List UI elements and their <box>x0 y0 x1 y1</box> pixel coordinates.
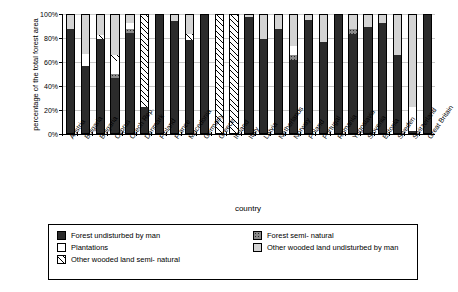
y-tick-label: 60% <box>24 59 58 66</box>
y-tick-label: 40% <box>24 83 58 90</box>
legend-item-owl-undisturbed: Other wooded land undisturbed by man <box>253 243 398 252</box>
legend-label: Other wooded land undisturbed by man <box>267 243 398 252</box>
y-tick-label: 20% <box>24 107 58 114</box>
x-tick-mark <box>92 132 93 136</box>
x-tick-mark <box>77 132 78 136</box>
y-tick-mark <box>59 86 62 87</box>
x-tick-mark <box>241 132 242 136</box>
x-tick-mark <box>315 132 316 136</box>
x-tick-mark <box>330 132 331 136</box>
legend-item-owl-seminatural: Other wooded land semi- natural <box>57 255 253 264</box>
y-tick-label: 0% <box>24 131 58 138</box>
legend-label: Other wooded land semi- natural <box>71 255 180 264</box>
x-tick-mark <box>151 132 152 136</box>
legend-label: Plantations <box>71 243 108 252</box>
x-tick-mark <box>107 132 108 136</box>
legend: Forest undisturbed by man Forest semi- n… <box>48 224 418 280</box>
legend-label: Forest undisturbed by man <box>71 231 160 240</box>
x-tick-mark <box>374 132 375 136</box>
y-tick-mark <box>59 62 62 63</box>
x-tick-mark <box>270 132 271 136</box>
x-tick-mark <box>345 132 346 136</box>
x-tick-mark <box>255 132 256 136</box>
y-tick-mark <box>59 14 62 15</box>
x-tick-mark <box>285 132 286 136</box>
x-tick-mark <box>136 132 137 136</box>
x-tick-mark <box>419 132 420 136</box>
y-tick-label: 80% <box>24 35 58 42</box>
x-tick-mark <box>226 132 227 136</box>
legend-item-plantations: Plantations <box>57 243 253 252</box>
legend-row: Forest undisturbed by man Forest semi- n… <box>57 231 409 240</box>
x-tick-mark <box>166 132 167 136</box>
legend-swatch-icon <box>253 243 262 252</box>
legend-swatch-icon <box>57 231 66 240</box>
x-tick-mark <box>62 132 63 136</box>
y-tick-label: 100% <box>24 11 58 18</box>
x-tick-mark <box>404 132 405 136</box>
x-tick-mark <box>181 132 182 136</box>
x-tick-mark <box>300 132 301 136</box>
x-axis-ticks: AustriaBulgariaBulgariaCyprusCzech Rep.D… <box>62 136 434 196</box>
legend-row: Plantations Other wooded land undisturbe… <box>57 243 409 252</box>
legend-label: Forest semi- natural <box>267 231 334 240</box>
x-tick-mark <box>211 132 212 136</box>
legend-swatch-icon <box>253 231 262 240</box>
legend-swatch-icon <box>57 243 66 252</box>
y-tick-mark <box>59 110 62 111</box>
x-tick-mark <box>360 132 361 136</box>
legend-item-forest-undisturbed: Forest undisturbed by man <box>57 231 253 240</box>
legend-row: Other wooded land semi- natural <box>57 255 409 264</box>
legend-item-forest-seminatural: Forest semi- natural <box>253 231 334 240</box>
x-tick-mark <box>122 132 123 136</box>
x-axis-title: country <box>62 204 434 213</box>
x-tick-mark <box>196 132 197 136</box>
chart-container: percentage of the total forest area 0%20… <box>0 0 458 292</box>
y-tick-mark <box>59 38 62 39</box>
x-tick-mark <box>389 132 390 136</box>
legend-swatch-icon <box>57 255 66 264</box>
